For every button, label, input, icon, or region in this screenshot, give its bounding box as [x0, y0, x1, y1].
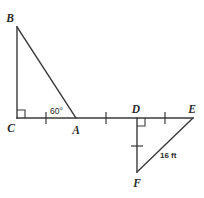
vertex-label-d: D — [131, 103, 141, 115]
segment-ba — [17, 27, 76, 118]
right-angle-marker-d — [137, 118, 145, 126]
geometry-diagram-svg: B C A D E F 60° 16 ft — [0, 0, 204, 198]
geometry-figure: B C A D E F 60° 16 ft — [0, 0, 204, 198]
right-angle-marker-c — [17, 110, 25, 118]
vertex-label-f: F — [132, 177, 141, 189]
side-label-ef-16ft: 16 ft — [160, 151, 177, 160]
vertex-label-a: A — [71, 124, 80, 136]
vertex-label-e: E — [187, 103, 196, 115]
angle-label-a-60deg: 60° — [50, 106, 63, 116]
vertex-label-b: B — [5, 12, 14, 24]
vertex-label-c: C — [7, 122, 15, 134]
